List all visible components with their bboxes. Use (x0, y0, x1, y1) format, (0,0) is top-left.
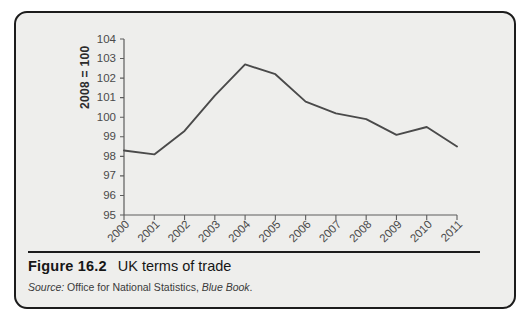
caption-block: Figure 16.2UK terms of trade Source: Off… (28, 257, 498, 294)
source-label: Source: (28, 281, 64, 293)
y-tick-label: 97 (103, 169, 116, 181)
figure-number: Figure 16.2 (28, 258, 107, 274)
y-axis-ticks: 9596979899100101102103104 (97, 33, 124, 221)
y-tick-label: 101 (97, 91, 116, 103)
y-tick-label: 104 (97, 33, 117, 45)
y-tick-label: 99 (103, 130, 116, 142)
figure-caption: Figure 16.2UK terms of trade (28, 257, 498, 276)
x-tick-label: 2008 (347, 218, 374, 245)
x-tick-label: 2009 (377, 218, 404, 245)
figure-card: 9596979899100101102103104 20002001200220… (14, 11, 516, 309)
x-axis-ticks (124, 215, 457, 220)
source-period: . (250, 281, 253, 293)
x-tick-label: 2005 (256, 218, 283, 245)
x-tick-label: 2002 (165, 218, 192, 245)
x-axis-labels: 2000200120022003200420052006200720082009… (105, 218, 465, 245)
x-tick-label: 2006 (286, 218, 313, 245)
x-tick-label: 2000 (105, 218, 132, 245)
x-tick-label: 2007 (317, 218, 344, 245)
caption-divider (28, 251, 480, 253)
x-tick-label: 2004 (226, 218, 253, 245)
x-tick-label: 2010 (408, 218, 435, 245)
y-tick-label: 102 (97, 72, 116, 84)
y-axis-title: 2008 = 100 (78, 46, 92, 109)
data-series-line (124, 64, 457, 154)
x-tick-label: 2003 (196, 218, 223, 245)
source-publication: Blue Book (202, 281, 250, 293)
x-tick-label: 2011 (438, 218, 464, 244)
figure-title: UK terms of trade (118, 258, 232, 274)
y-tick-label: 95 (103, 209, 116, 221)
y-tick-label: 100 (97, 111, 116, 123)
figure-source: Source: Office for National Statistics, … (28, 280, 498, 294)
y-tick-label: 103 (97, 52, 116, 64)
y-tick-label: 96 (103, 189, 116, 201)
chart-plot-area: 9596979899100101102103104 20002001200220… (16, 13, 516, 245)
y-tick-label: 98 (103, 150, 116, 162)
x-tick-label: 2001 (135, 218, 162, 245)
source-body: Office for National Statistics, (67, 281, 199, 293)
